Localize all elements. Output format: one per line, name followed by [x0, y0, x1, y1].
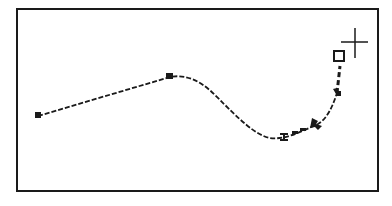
anchor-point-icon[interactable]: [333, 88, 341, 96]
curve-drawing[interactable]: [0, 0, 392, 206]
crosshair-icon: [341, 28, 368, 58]
square-handle-icon[interactable]: [334, 51, 344, 61]
bezier-path[interactable]: [38, 76, 337, 138]
anchor-point-icon[interactable]: [166, 73, 173, 79]
anchor-point-icon[interactable]: [35, 112, 41, 118]
anchor-point-icon[interactable]: [292, 118, 322, 134]
